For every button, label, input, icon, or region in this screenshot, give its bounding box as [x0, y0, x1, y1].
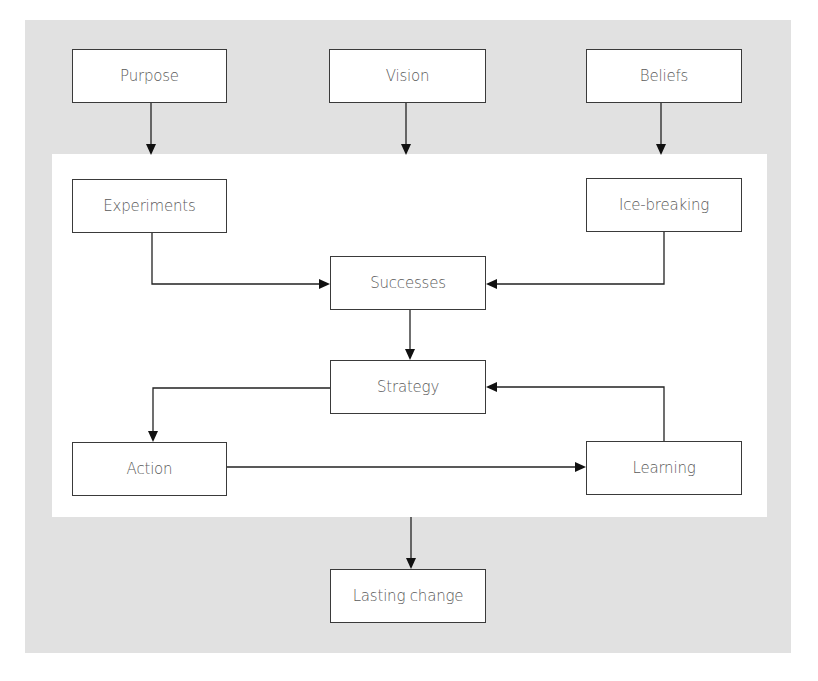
node-purpose: Purpose: [72, 49, 227, 103]
node-strategy: Strategy: [330, 360, 486, 414]
node-ice-breaking-label: Ice-breaking: [619, 196, 709, 214]
node-vision: Vision: [329, 49, 486, 103]
node-ice-breaking: Ice-breaking: [586, 178, 742, 232]
node-learning: Learning: [586, 441, 742, 495]
node-beliefs-label: Beliefs: [640, 67, 688, 85]
node-experiments-label: Experiments: [103, 197, 195, 215]
node-strategy-label: Strategy: [377, 378, 439, 396]
node-successes-label: Successes: [370, 274, 446, 292]
node-successes: Successes: [330, 256, 486, 310]
node-purpose-label: Purpose: [120, 67, 179, 85]
node-experiments: Experiments: [72, 179, 227, 233]
node-lasting-change-label: Lasting change: [353, 587, 464, 605]
node-vision-label: Vision: [386, 67, 430, 85]
node-action-label: Action: [127, 460, 173, 478]
node-beliefs: Beliefs: [586, 49, 742, 103]
diagram-canvas: Purpose Vision Beliefs Experiments Ice-b…: [0, 0, 818, 681]
node-action: Action: [72, 442, 227, 496]
node-learning-label: Learning: [633, 459, 696, 477]
node-lasting-change: Lasting change: [330, 569, 486, 623]
